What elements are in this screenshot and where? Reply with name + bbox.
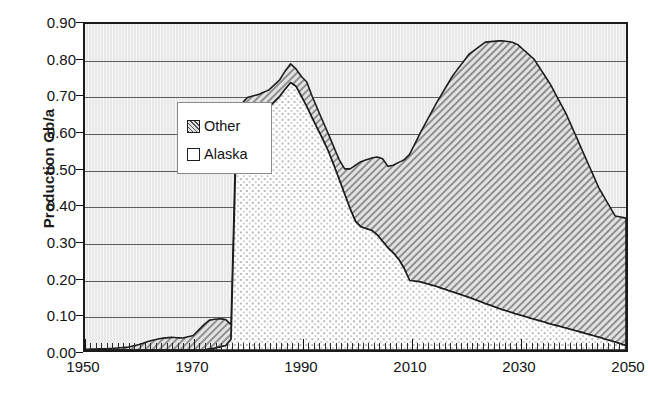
x-tick-label: 2030 <box>502 358 535 375</box>
legend-swatch-other-icon <box>187 120 200 133</box>
x-axis-tick-labels: 195019701990201020302050 <box>0 358 650 388</box>
plot-area: Other Alaska <box>83 22 628 352</box>
x-tick-label: 1950 <box>66 358 99 375</box>
y-tick-mark <box>76 352 83 353</box>
y-tick-label: 0.60 <box>22 125 76 140</box>
y-tick-mark <box>76 279 83 280</box>
y-tick-mark <box>76 22 83 23</box>
y-tick-mark <box>76 59 83 60</box>
y-tick-mark <box>76 95 83 96</box>
x-tick-label: 1990 <box>284 358 317 375</box>
x-tick-mark <box>194 339 195 350</box>
x-tick-mark <box>521 339 522 350</box>
x-tick-label: 1970 <box>175 358 208 375</box>
stacked-area-layers <box>85 24 626 350</box>
legend-item-other: Other <box>187 112 271 140</box>
x-tick-label: 2010 <box>393 358 426 375</box>
y-tick-label: 0.90 <box>22 15 76 30</box>
y-tick-mark <box>76 205 83 206</box>
x-axis-major-ticks <box>85 339 626 350</box>
x-tick-mark <box>85 339 86 350</box>
y-tick-label: 0.70 <box>22 88 76 103</box>
y-tick-label: 0.30 <box>22 235 76 250</box>
x-tick-label: 2050 <box>611 358 644 375</box>
chart-legend: Other Alaska <box>177 102 272 174</box>
y-tick-label: 0.40 <box>22 198 76 213</box>
y-tick-mark <box>76 132 83 133</box>
legend-swatch-alaska-icon <box>187 148 200 161</box>
chart-figure: Production Gb/a 0.000.100.200.300.400.50… <box>0 0 650 400</box>
y-axis-tick-labels: 0.000.100.200.300.400.500.600.700.800.90 <box>18 0 76 400</box>
y-tick-mark <box>76 169 83 170</box>
y-tick-label: 0.80 <box>22 51 76 66</box>
y-tick-mark <box>76 315 83 316</box>
y-tick-label: 0.20 <box>22 271 76 286</box>
legend-label-alaska: Alaska <box>204 147 248 162</box>
x-tick-mark <box>303 339 304 350</box>
y-tick-label: 0.50 <box>22 161 76 176</box>
legend-item-alaska: Alaska <box>187 140 271 168</box>
x-tick-mark <box>412 339 413 350</box>
y-tick-mark <box>76 242 83 243</box>
legend-label-other: Other <box>204 119 240 134</box>
y-tick-label: 0.10 <box>22 308 76 323</box>
